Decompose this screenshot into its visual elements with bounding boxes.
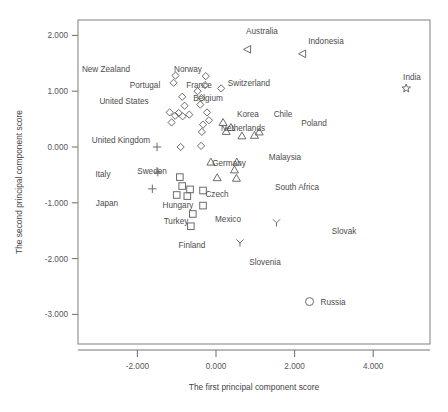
point-label: Turkey — [164, 217, 190, 226]
y-tick-label: -3.000 — [45, 310, 69, 319]
point-label: Switzerland — [228, 79, 271, 88]
scatter-plot-figure: 2.0001.0000.000-1.000-2.000-3.000-2.0000… — [0, 0, 448, 412]
point-label: Finland — [179, 241, 206, 250]
point-label: Czech — [205, 190, 229, 199]
point-label: Belgium — [193, 94, 223, 103]
point-label: Mexico — [215, 215, 241, 224]
x-tick-label: 2.000 — [284, 362, 305, 371]
point-label: Indonesia — [308, 37, 344, 46]
point-label: Italy — [95, 170, 111, 179]
x-tick-label: 0.000 — [206, 362, 227, 371]
point-label: Korea — [237, 110, 259, 119]
point-label: Hungary — [163, 201, 195, 210]
point-label: France — [186, 81, 212, 90]
y-tick-label: -2.000 — [45, 255, 69, 264]
point-label: South Africa — [275, 183, 320, 192]
y-tick-label: 1.000 — [48, 87, 69, 96]
point-label: Poland — [301, 119, 327, 128]
point-label: Australia — [246, 27, 278, 36]
point-label: India — [403, 73, 421, 82]
x-tick-label: 4.000 — [363, 362, 384, 371]
point-label: Sweden — [137, 167, 167, 176]
point-label: New Zealand — [82, 65, 131, 74]
point-label: Chile — [274, 110, 293, 119]
point-label: Malaysia — [269, 153, 302, 162]
point-label: Russia — [320, 298, 345, 307]
point-label: United Kingdom — [92, 136, 150, 145]
chart-canvas: 2.0001.0000.000-1.000-2.000-3.000-2.0000… — [0, 0, 448, 412]
y-tick-label: 2.000 — [48, 31, 69, 40]
point-label: Slovenia — [249, 258, 281, 267]
y-tick-label: -1.000 — [45, 199, 69, 208]
point-label: Slovak — [332, 227, 357, 236]
x-axis-title: The first principal component score — [189, 382, 320, 392]
x-tick-label: -2.000 — [126, 362, 150, 371]
y-tick-label: 0.000 — [48, 143, 69, 152]
point-label: Portugal — [130, 81, 161, 90]
point-label: Netherlands — [221, 124, 265, 133]
y-axis-title: The second principal component score — [14, 110, 24, 254]
point-label: Norway — [174, 65, 203, 74]
point-label: United States — [99, 97, 148, 106]
point-label: Japan — [96, 199, 119, 208]
point-label: Germany — [212, 159, 247, 168]
